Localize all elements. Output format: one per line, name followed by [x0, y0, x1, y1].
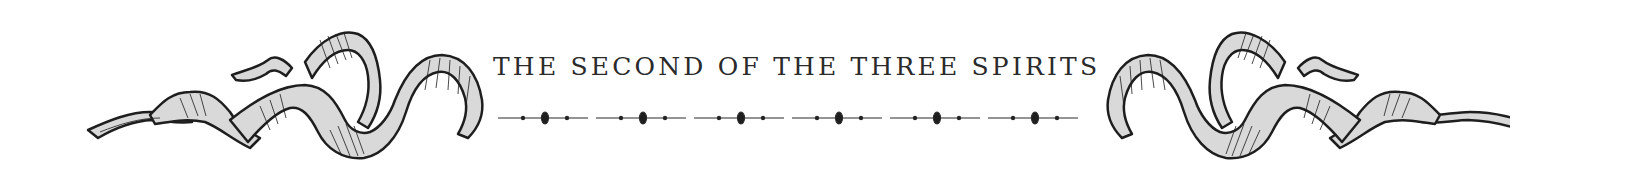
ribbon-flourish-right-icon	[1090, 20, 1510, 180]
chapter-title: THE SECOND OF THE THREE SPIRITS	[493, 52, 1093, 81]
dotted-rule-divider	[494, 108, 1094, 128]
ribbon-flourish-left-icon	[80, 20, 500, 180]
